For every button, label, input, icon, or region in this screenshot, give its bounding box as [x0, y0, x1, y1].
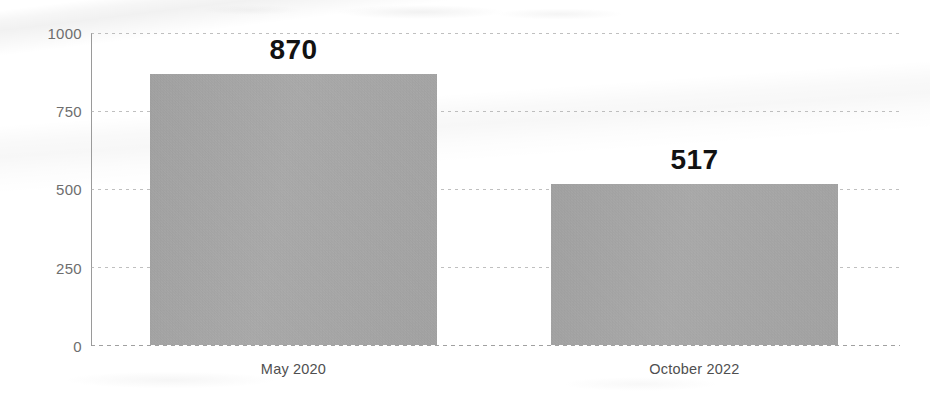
y-tick-label-500: 500 — [22, 182, 82, 197]
scan-artifact-top-smudge — [0, 0, 930, 26]
x-axis-baseline — [91, 345, 900, 346]
bar-chart-figure: 1000 750 500 250 0 870 517 May 2020 Octo… — [0, 0, 930, 398]
bar-value-label-october-2022: 517 — [551, 146, 838, 174]
plot-area — [91, 33, 900, 345]
bar-may-2020[interactable] — [150, 74, 437, 345]
bar-value-label-may-2020: 870 — [150, 36, 437, 64]
x-category-label-may-2020: May 2020 — [150, 362, 437, 377]
gridline-1000 — [91, 33, 900, 34]
y-tick-label-1000: 1000 — [22, 26, 82, 41]
y-axis-tick-labels: 1000 750 500 250 0 — [14, 0, 82, 398]
y-tick-label-250: 250 — [22, 261, 82, 276]
y-tick-label-0: 0 — [22, 339, 82, 354]
bar-october-2022[interactable] — [551, 184, 838, 345]
y-tick-label-750: 750 — [22, 104, 82, 119]
x-category-label-october-2022: October 2022 — [551, 362, 838, 377]
